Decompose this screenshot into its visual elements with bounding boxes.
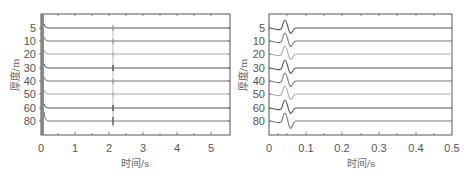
right-trace-5 <box>269 20 452 33</box>
right-y-tick: 5 <box>259 22 265 34</box>
left-y-tick: 50 <box>24 88 36 100</box>
left-y-tick: 10 <box>24 35 36 47</box>
right-x-tick: 0.1 <box>298 142 313 154</box>
left-x-tick: 2 <box>106 142 112 154</box>
left-trace-30 <box>44 64 230 68</box>
right-chart: 5 10 20 30 40 50 60 80 0 0.1 0.2 0.3 0.4… <box>234 0 467 173</box>
right-trace-30 <box>269 60 452 73</box>
left-x-tick: 0 <box>38 142 44 154</box>
right-trace-60 <box>269 100 452 113</box>
right-trace-10 <box>269 33 452 46</box>
right-y-tick: 50 <box>253 88 265 100</box>
left-trace-10 <box>44 37 230 41</box>
right-y-tick: 60 <box>253 102 265 114</box>
left-y-tick: 40 <box>24 75 36 87</box>
right-x-tick: 0.5 <box>444 142 459 154</box>
left-early-arrival-band <box>41 14 44 135</box>
left-x-tick-labels: 0 1 2 3 4 5 <box>38 142 214 154</box>
left-trace-60 <box>44 104 230 108</box>
right-x-tick: 0.4 <box>408 142 423 154</box>
right-x-tick: 0.3 <box>371 142 386 154</box>
right-x-tick: 0 <box>266 142 272 154</box>
right-x-tick: 0.2 <box>334 142 349 154</box>
left-x-tick: 5 <box>208 142 214 154</box>
left-y-tick: 60 <box>24 102 36 114</box>
right-y-tick: 30 <box>253 62 265 74</box>
left-y-axis-label: 厚度/m <box>9 58 21 91</box>
left-chart-panel: 5 10 20 30 40 50 60 80 0 1 2 3 4 5 时间/s … <box>0 0 234 173</box>
right-trace-50 <box>269 86 452 99</box>
left-x-axis-label: 时间/s <box>121 157 150 169</box>
left-trace-5 <box>44 24 230 28</box>
left-y-tick: 80 <box>24 115 36 127</box>
right-y-tick: 20 <box>253 48 265 60</box>
left-y-tick: 20 <box>24 48 36 60</box>
right-axes-frame <box>269 14 452 135</box>
left-axes-frame <box>41 14 230 135</box>
left-trace-80 <box>44 112 230 121</box>
right-y-tick: 10 <box>253 35 265 47</box>
left-x-tick: 4 <box>174 142 180 154</box>
right-y-tick: 40 <box>253 75 265 87</box>
right-trace-40 <box>269 73 452 86</box>
right-trace-80 <box>269 113 452 128</box>
left-trace-40 <box>44 77 230 81</box>
left-x-tick: 3 <box>140 142 146 154</box>
left-trace-50 <box>44 90 230 94</box>
left-x-tick: 1 <box>72 142 78 154</box>
right-y-axis-label: 厚度/m <box>237 58 249 91</box>
right-x-tick-labels: 0 0.1 0.2 0.3 0.4 0.5 <box>266 142 460 154</box>
right-y-tick: 80 <box>253 115 265 127</box>
right-chart-panel: 5 10 20 30 40 50 60 80 0 0.1 0.2 0.3 0.4… <box>234 0 467 173</box>
left-y-ticks <box>39 28 230 121</box>
right-traces <box>269 20 452 128</box>
left-y-tick: 5 <box>30 22 36 34</box>
left-y-tick: 30 <box>24 62 36 74</box>
left-trace-20 <box>44 50 230 54</box>
right-trace-20 <box>269 46 452 59</box>
right-y-tick-labels: 5 10 20 30 40 50 60 80 <box>253 22 265 127</box>
right-x-axis-label: 时间/s <box>347 157 376 169</box>
left-traces <box>44 24 230 121</box>
left-chart: 5 10 20 30 40 50 60 80 0 1 2 3 4 5 时间/s … <box>0 0 234 173</box>
left-y-tick-labels: 5 10 20 30 40 50 60 80 <box>24 22 36 127</box>
